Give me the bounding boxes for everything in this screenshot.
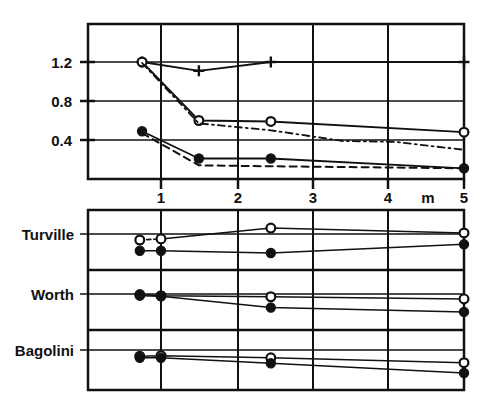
series-line-open-circle-dashed xyxy=(142,63,464,150)
upper-ytick-label-3: 0.4 xyxy=(51,132,73,149)
marker-open-circle xyxy=(460,358,469,367)
lower-row-label-turville: Turville xyxy=(22,226,74,243)
upper-xtick-label-4: 4 xyxy=(384,189,393,205)
upper-xtick-label-3: 3 xyxy=(309,189,317,205)
marker-filled-circle xyxy=(459,368,468,377)
marker-filled-circle xyxy=(135,246,144,255)
upper-chart-panel: 1.2 0.8 0.4 1 2 3 4 5 m xyxy=(0,0,496,205)
figure-root: 1.2 0.8 0.4 1 2 3 4 5 m xyxy=(0,0,496,418)
lower-row-label-worth: Worth xyxy=(31,286,74,303)
lower-row-label-bagolini: Bagolini xyxy=(15,342,74,359)
lower-data-layer xyxy=(135,224,468,378)
marker-filled-circle xyxy=(266,154,275,163)
marker-open-circle xyxy=(266,224,275,233)
upper-xtick-label-5: 5 xyxy=(460,189,468,205)
series-line-filled-circle-solid xyxy=(142,131,464,168)
marker-open-circle xyxy=(157,235,166,244)
marker-open-circle xyxy=(460,229,469,238)
marker-filled-circle xyxy=(156,292,165,301)
marker-filled-circle xyxy=(194,154,203,163)
lower-subpanel-dividers xyxy=(88,270,464,330)
marker-filled-circle xyxy=(135,291,144,300)
upper-xtick-label-1: 1 xyxy=(157,189,165,205)
upper-xtick-label-2: 2 xyxy=(234,189,242,205)
marker-filled-circle xyxy=(266,248,275,257)
upper-data-layer xyxy=(137,57,470,173)
series-line-open-circle-solid xyxy=(142,62,464,132)
series-line-plus-solid xyxy=(142,62,464,71)
lower-chart-panel: Turville Worth Bagolini xyxy=(0,205,496,418)
upper-ytick-label-1: 1.2 xyxy=(51,54,72,71)
marker-open-circle xyxy=(460,295,469,304)
marker-filled-circle xyxy=(459,307,468,316)
series-line-filled-circle xyxy=(140,244,464,253)
marker-filled-circle xyxy=(135,353,144,362)
marker-open-circle xyxy=(266,292,275,301)
upper-x-unit-label: m xyxy=(421,189,434,205)
marker-filled-circle xyxy=(459,240,468,249)
marker-open-circle xyxy=(460,128,469,137)
marker-filled-circle xyxy=(156,246,165,255)
upper-x-ticks xyxy=(161,179,464,189)
series-line-filled-circle xyxy=(140,358,464,373)
marker-filled-circle xyxy=(266,303,275,312)
series-line-open-circle xyxy=(140,295,464,299)
marker-open-circle xyxy=(266,117,275,126)
marker-filled-circle xyxy=(156,353,165,362)
series-line-filled-circle-dashed xyxy=(142,133,464,168)
marker-open-circle xyxy=(135,236,144,245)
upper-ytick-label-2: 0.8 xyxy=(51,93,72,110)
marker-filled-circle xyxy=(266,359,275,368)
